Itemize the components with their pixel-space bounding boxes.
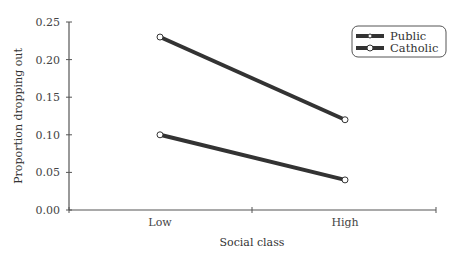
legend: Public Catholic [352,26,446,57]
data-point-public-low [157,34,163,40]
y-axis-title: Proportion dropping out [12,48,25,184]
line-chart: 0.000.050.100.150.200.25 Low High Social… [0,0,456,260]
y-tick-label: 0.15 [36,91,61,104]
y-tick-label: 0.25 [36,16,61,29]
y-tick-label: 0.05 [36,166,61,179]
y-tick-label: 0.20 [36,54,61,67]
x-tick-label-low: Low [148,216,172,229]
series-line-catholic [160,135,345,180]
legend-catholic-marker-icon [367,45,373,51]
x-axis-title: Social class [220,236,285,249]
y-tick-label: 0.00 [36,204,61,217]
series-group [157,34,348,183]
series-line-public [160,37,345,120]
y-tick-label: 0.10 [36,129,61,142]
y-ticks: 0.000.050.100.150.200.25 [36,16,73,217]
data-point-catholic-low [157,132,163,138]
data-point-public-high [342,117,348,123]
data-point-catholic-high [342,177,348,183]
legend-label-catholic: Catholic [390,41,438,55]
x-tick-label-high: High [331,216,358,229]
legend-public-marker-icon [368,34,372,38]
